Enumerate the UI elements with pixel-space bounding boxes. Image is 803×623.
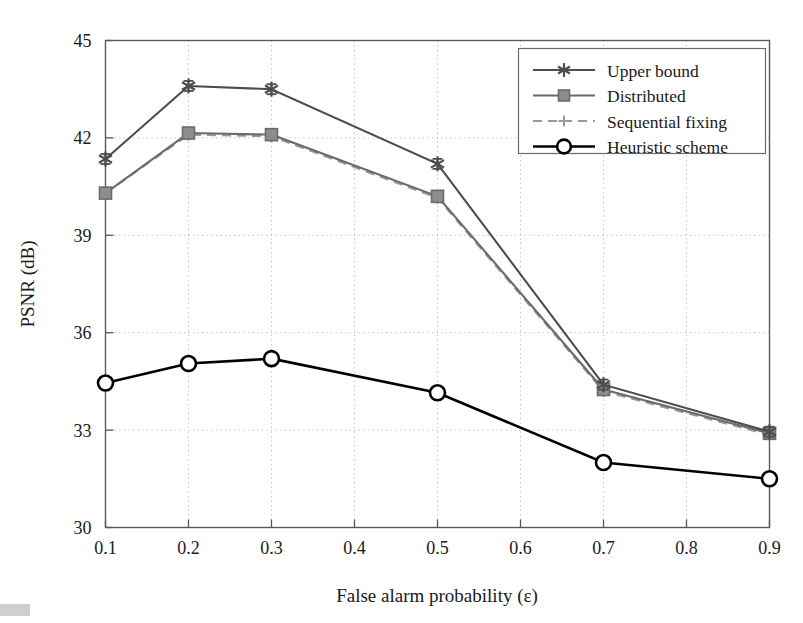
- circle-icon: [264, 351, 279, 366]
- psnr-vs-false-alarm-line-chart: 0.10.20.30.40.50.60.70.80.9 303336394245…: [0, 0, 803, 623]
- y-tick-label: 33: [74, 421, 92, 441]
- circle-icon: [596, 455, 611, 470]
- x-tick-label: 0.4: [343, 538, 366, 558]
- y-tick-label: 36: [74, 323, 92, 343]
- x-tick-label: 0.6: [509, 538, 532, 558]
- circle-icon: [181, 356, 196, 371]
- square-icon: [432, 190, 444, 202]
- legend-label: Sequential fixing: [607, 112, 727, 132]
- x-tick-label: 0.1: [94, 538, 117, 558]
- square-icon: [266, 129, 278, 141]
- legend-label: Distributed: [607, 86, 686, 106]
- y-tick-label: 45: [74, 31, 92, 51]
- x-tick-label: 0.3: [260, 538, 283, 558]
- page-edge-artifact: [0, 604, 30, 616]
- legend-label: Heuristic scheme: [607, 137, 728, 157]
- x-axis-tick-labels: 0.10.20.30.40.50.60.70.80.9: [94, 538, 781, 558]
- x-axis-title: False alarm probability (ε): [336, 585, 538, 607]
- square-icon: [183, 127, 195, 139]
- circle-icon: [430, 385, 445, 400]
- x-tick-label: 0.5: [426, 538, 449, 558]
- y-axis-title: PSNR (dB): [17, 240, 39, 327]
- circle-icon: [98, 376, 113, 391]
- x-tick-label: 0.9: [758, 538, 781, 558]
- chart-figure: 0.10.20.30.40.50.60.70.80.9 303336394245…: [0, 0, 803, 623]
- chart-legend: Upper boundDistributedSequential fixingH…: [519, 49, 766, 158]
- x-tick-label: 0.8: [675, 538, 698, 558]
- square-icon: [558, 90, 569, 101]
- square-icon: [100, 187, 112, 199]
- circle-icon: [557, 140, 571, 154]
- legend-item-heuristic-scheme[interactable]: Heuristic scheme: [533, 137, 728, 157]
- circle-icon: [762, 471, 777, 486]
- y-tick-label: 30: [74, 518, 92, 538]
- x-tick-label: 0.7: [592, 538, 615, 558]
- legend-label: Upper bound: [607, 61, 699, 81]
- y-tick-label: 42: [74, 128, 92, 148]
- x-tick-label: 0.2: [177, 538, 200, 558]
- y-tick-label: 39: [74, 226, 92, 246]
